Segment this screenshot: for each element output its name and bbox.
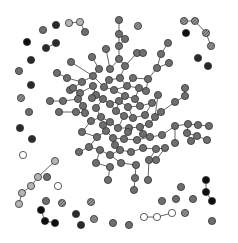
graph-node-gray [145,120,152,127]
graph-node-gray [177,183,184,190]
graph-node-gray [109,134,116,141]
graph-node-dark [16,124,23,131]
graph-node-gray [96,146,103,153]
graph-node-gray [111,141,118,148]
graph-node-hatched [58,199,65,206]
graph-node-gray [136,123,143,130]
graph-node-gray [172,195,179,202]
graph-node-gray [184,120,191,127]
graph-node-gray [164,39,171,46]
graph-node-gray [157,108,164,115]
graph-node-gray [129,114,136,121]
graph-node-gray [171,98,178,105]
graph-node-gray [139,130,146,137]
graph-node-gray [87,117,94,124]
graph-node-gray [100,83,107,90]
graph-node-gray [139,49,146,56]
graph-node-white [153,213,160,220]
graph-node-gray [130,186,137,193]
graph-node-gray [139,144,146,151]
graph-node-hatched [17,94,24,101]
graph-node-gray [116,74,123,81]
graph-node-light [18,189,25,196]
graph-node-hatched [180,17,187,24]
graph-node-gray [69,84,76,91]
graph-node-gray [153,64,160,71]
graph-node-gray [115,30,122,37]
graph-node-gray [114,124,121,131]
graph-node-gray [53,69,60,76]
graph-node-hatched [207,42,214,49]
graph-node-light [76,18,83,25]
graph-node-hatched [202,29,209,36]
graph-node-gray [120,135,127,142]
graph-node-gray [105,76,112,83]
graph-node-gray [89,72,96,79]
graph-node-black [202,188,209,195]
graph-node-gray [132,161,139,168]
graph-node-gray [146,133,153,140]
graph-node-gray [46,97,53,104]
graph-node-gray [161,144,168,151]
graph-node-gray [104,176,111,183]
graph-node-gray [67,58,74,65]
graph-node-gray [125,221,132,228]
graph-node-gray [120,112,127,119]
graph-node-black [37,206,44,213]
graph-node-gray [88,94,95,101]
graph-node-gray [81,109,88,116]
graph-node-gray [183,129,190,136]
graph-node-black [182,29,189,36]
graph-node-dark [194,54,201,61]
graph-node-gray [59,97,66,104]
graph-node-white [140,213,147,220]
graph-node-gray [106,151,113,158]
graph-node-gray [42,197,49,204]
graph-node-hatched [181,209,188,216]
graph-node-gray [81,28,88,35]
graph-node-gray [158,131,165,138]
graph-node-gray [79,102,86,109]
graph-node-gray [109,219,116,226]
graph-node-gray [89,82,96,89]
graph-node-hatched [191,17,198,24]
graph-node-dark [52,21,59,28]
graph-node-gray [115,42,122,49]
graph-node-gray [157,50,164,57]
graph-node-gray [106,163,113,170]
graph-node-gray [43,173,50,180]
graph-node-gray [92,159,99,166]
graph-node-gray [74,95,81,102]
graph-node-gray [152,156,159,163]
graph-node-black [23,38,30,45]
graph-node-gray [121,62,128,69]
graph-node-gray [133,136,140,143]
graph-node-gray [124,103,131,110]
graph-node-gray [144,75,151,82]
graph-node-white [19,151,26,158]
graph-node-gray [124,128,131,135]
graph-node-gray [142,87,149,94]
graph-node-gray [151,113,158,120]
graph-node-gray [135,84,142,91]
graph-node-gray [97,113,104,120]
network-graph [0,0,238,243]
graph-node-gray [148,99,155,106]
graph-node-gray [106,118,113,125]
graph-node-gray [115,97,122,104]
graph-node-gray [93,133,100,140]
graph-node-gray [115,55,122,62]
graph-node-light [15,200,22,207]
graph-node-dark [27,56,34,63]
graph-node-hatched [134,22,141,29]
graph-node-gray [115,16,122,23]
graph-node-gray [75,148,82,155]
node-layer [15,16,215,228]
graph-node-gray [39,26,46,33]
graph-node-dark [52,39,59,46]
graph-node-gray [95,65,102,72]
graph-node-gray [136,102,143,109]
graph-node-gray [92,104,99,111]
graph-node-gray [102,45,109,52]
graph-node-gray [117,159,124,166]
